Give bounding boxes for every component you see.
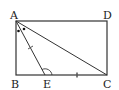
angle-dot-eac [23, 28, 26, 31]
label-d: D [103, 9, 112, 22]
angle-dot-bae [17, 30, 20, 33]
label-b: B [11, 78, 19, 90]
label-c: C [103, 78, 111, 90]
label-e: E [43, 78, 51, 90]
geometry-diagram: A D B E C [0, 0, 119, 90]
label-a: A [9, 9, 19, 22]
